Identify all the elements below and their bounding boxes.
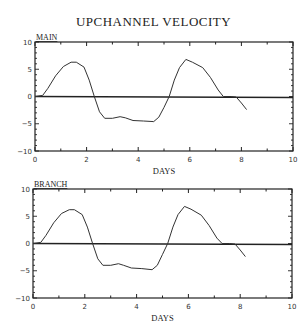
y-tick-label: −5 (22, 120, 32, 128)
velocity-line (33, 206, 245, 269)
y-tick-label: 10 (21, 186, 30, 194)
main-panel: −10−505100246810DAYSMAIN (17, 33, 297, 176)
y-tick-label: 5 (26, 213, 30, 221)
x-tick-label: 0 (33, 156, 37, 164)
x-tick-label: 10 (288, 303, 297, 311)
zero-line (33, 244, 292, 245)
y-tick-label: 0 (26, 240, 30, 248)
y-tick-label: −10 (15, 295, 30, 303)
x-tick-label: 2 (83, 303, 87, 311)
velocity-line (35, 59, 247, 121)
x-tick-label: 2 (84, 156, 88, 164)
x-axis-label: DAYS (151, 313, 174, 323)
y-tick-label: 10 (23, 39, 32, 47)
panel-label: MAIN (36, 33, 58, 42)
x-tick-label: 10 (289, 156, 298, 164)
x-tick-label: 6 (186, 303, 191, 311)
x-tick-label: 6 (188, 156, 193, 164)
y-tick-label: 5 (28, 66, 32, 74)
zero-line (35, 97, 293, 98)
x-tick-label: 8 (239, 156, 243, 164)
y-tick-label: 0 (28, 93, 32, 101)
y-tick-label: −5 (20, 267, 30, 275)
x-tick-label: 8 (238, 303, 242, 311)
x-tick-label: 4 (136, 156, 141, 164)
panel-label: BRANCH (34, 180, 68, 189)
y-tick-label: −10 (17, 148, 32, 156)
x-axis-label: DAYS (153, 166, 176, 176)
branch-panel: −10−505100246810DAYSBRANCH (15, 180, 296, 323)
x-tick-label: 4 (134, 303, 139, 311)
chart-canvas: −10−505100246810DAYSMAIN −10−50510024681… (0, 0, 307, 333)
x-tick-label: 0 (31, 303, 35, 311)
